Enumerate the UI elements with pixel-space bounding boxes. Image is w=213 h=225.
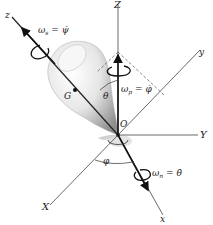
spinning-body (48, 39, 132, 147)
phi-arc (95, 160, 133, 164)
z-axis-label: z (4, 10, 10, 20)
Z-axis-label: Z (113, 0, 122, 10)
y-axis-label: y (198, 47, 205, 57)
spin-velocity-label: ωs = ψ̇ (38, 25, 70, 36)
phi-label: φ (103, 156, 110, 166)
origin-dot (116, 133, 120, 137)
phi-arrow-tip (132, 161, 134, 163)
Y-axis-label: Y (200, 129, 208, 140)
X-axis-label: X (41, 201, 50, 212)
nutation-velocity-label: ωn = θ̇ (152, 168, 182, 179)
center-of-mass-label: G (64, 91, 71, 101)
precession-velocity-label: ωp = φ̇ (121, 84, 152, 96)
origin-label: O (120, 119, 128, 129)
theta-label: θ (103, 91, 109, 101)
euler-angle-diagram: Z Y X z y x O G θ φ ωs = ψ̇ ωp = φ̇ ωn =… (0, 0, 213, 225)
center-of-mass-dot (73, 88, 77, 92)
X-axis (50, 135, 118, 205)
x-axis-label: x (160, 214, 165, 224)
